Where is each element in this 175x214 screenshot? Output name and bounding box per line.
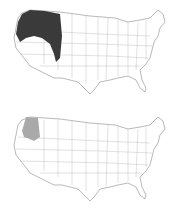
us-map-bottom-svg bbox=[0, 107, 175, 214]
us-map-bottom bbox=[0, 107, 175, 214]
us-map-top bbox=[0, 0, 175, 107]
us-map-top-svg bbox=[0, 0, 175, 107]
